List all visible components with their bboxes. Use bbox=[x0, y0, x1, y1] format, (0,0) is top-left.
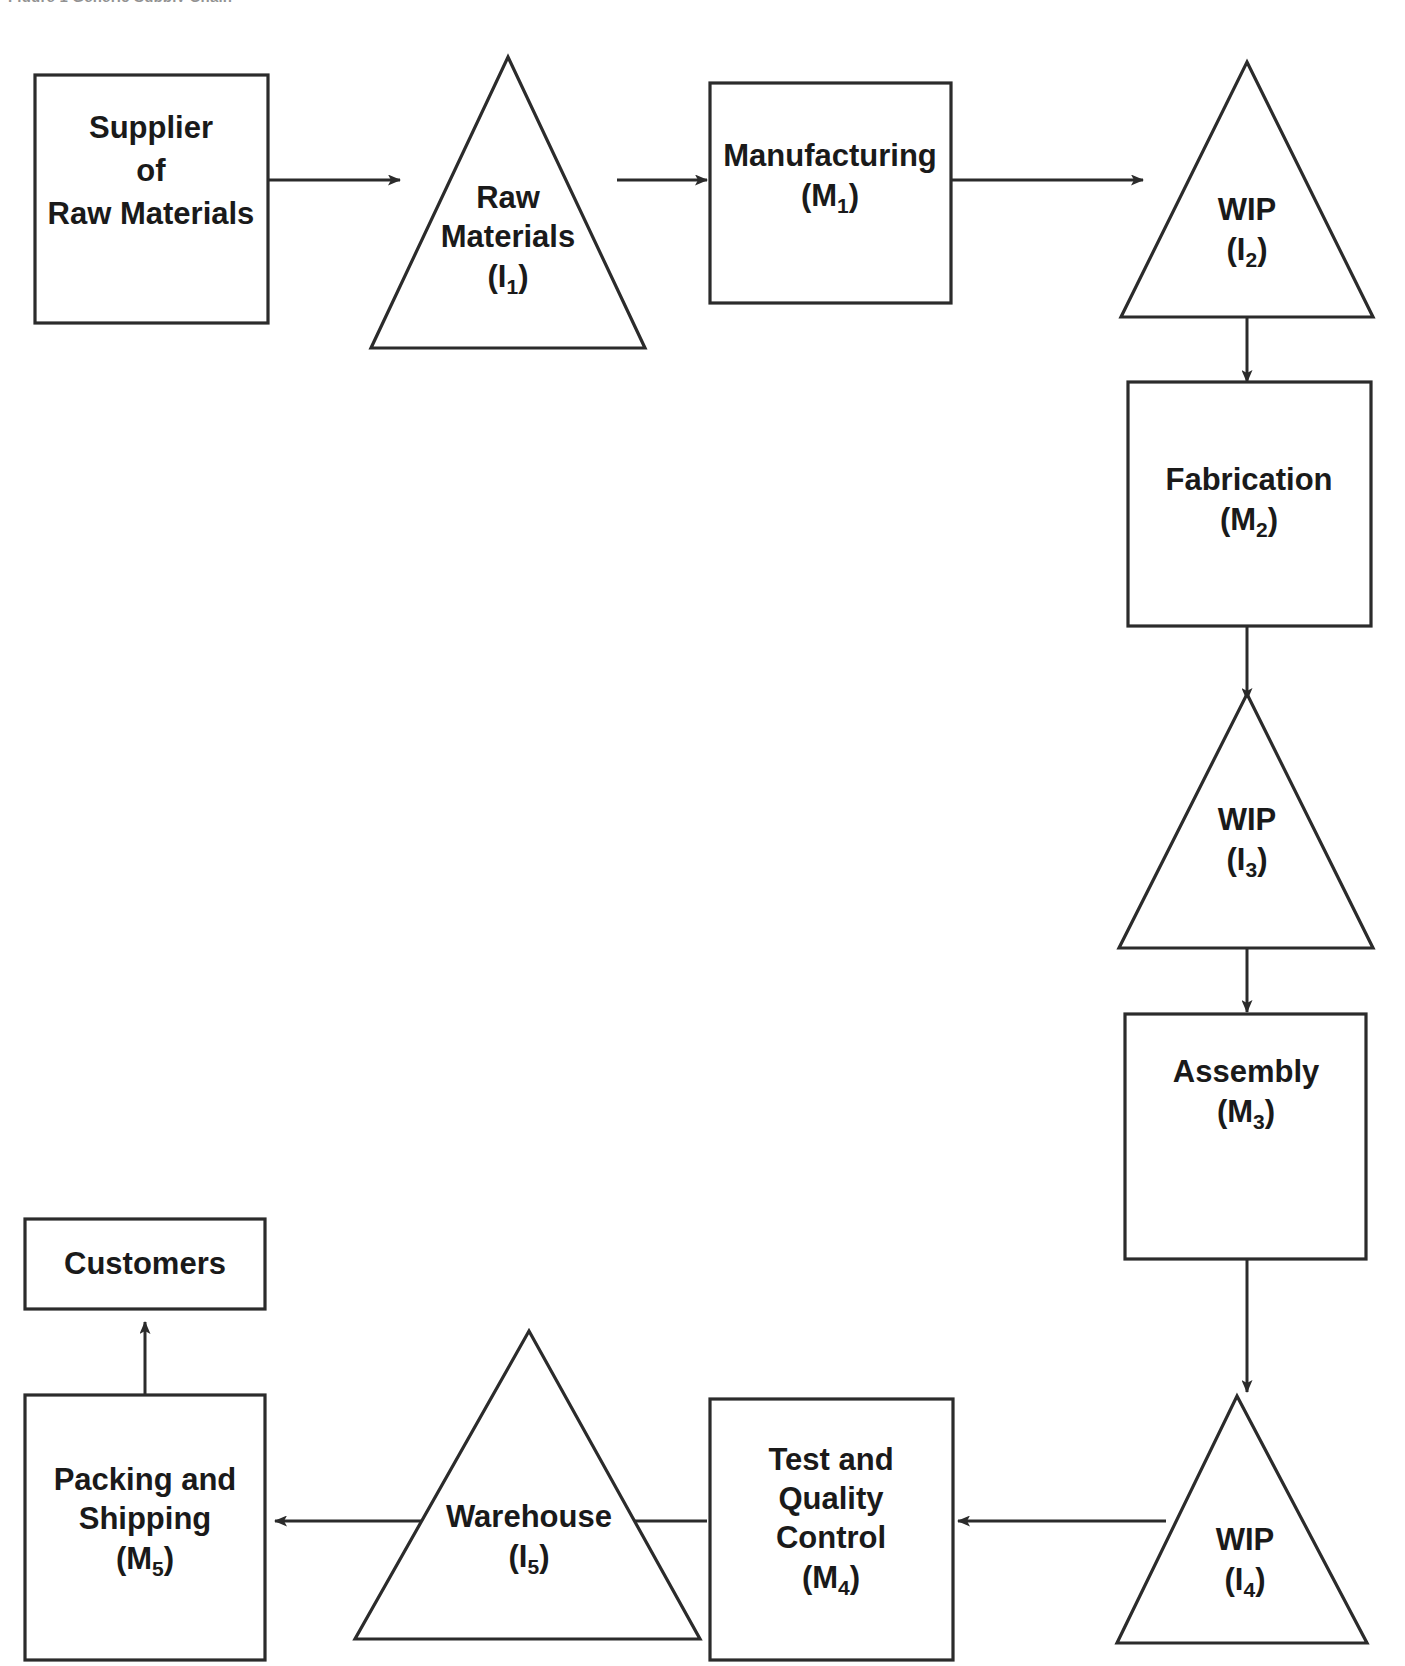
supplier-label-line3: Raw Materials bbox=[48, 196, 255, 231]
packing-shipping-label-line2: Shipping bbox=[79, 1501, 212, 1536]
fabrication-code: (M2) bbox=[1220, 502, 1278, 540]
node-wip3[interactable]: WIP (I3) bbox=[1119, 694, 1373, 948]
wip2-label-line1: WIP bbox=[1218, 192, 1277, 227]
test-quality-label-line2: Quality bbox=[778, 1481, 884, 1516]
wip2-triangle[interactable] bbox=[1121, 62, 1373, 317]
test-quality-label-line1: Test and bbox=[768, 1442, 893, 1477]
node-customers[interactable]: Customers bbox=[25, 1219, 265, 1309]
node-fabrication[interactable]: Fabrication (M2) bbox=[1128, 382, 1371, 626]
test-quality-code: (M4) bbox=[802, 1560, 860, 1598]
node-test-quality[interactable]: Test and Quality Control (M4) bbox=[710, 1399, 953, 1660]
manufacturing-label-line1: Manufacturing bbox=[723, 138, 937, 173]
warehouse-label-line1: Warehouse bbox=[446, 1499, 612, 1534]
flowchart-canvas: Supplier of Raw Materials Raw Materials … bbox=[0, 0, 1405, 1666]
supplier-label-line1: Supplier bbox=[89, 110, 213, 145]
assembly-code: (M3) bbox=[1217, 1094, 1275, 1132]
node-wip2[interactable]: WIP (I2) bbox=[1121, 62, 1373, 317]
fabrication-label-line1: Fabrication bbox=[1165, 462, 1332, 497]
customers-label-line1: Customers bbox=[64, 1246, 226, 1281]
wip3-label-line1: WIP bbox=[1218, 802, 1277, 837]
node-raw-materials[interactable]: Raw Materials (I1) bbox=[371, 57, 645, 348]
wip4-label-line1: WIP bbox=[1216, 1522, 1275, 1557]
test-quality-label-line3: Control bbox=[776, 1520, 886, 1555]
raw-materials-label-line2: Materials bbox=[441, 219, 575, 254]
assembly-box[interactable] bbox=[1125, 1014, 1366, 1259]
warehouse-triangle[interactable] bbox=[355, 1331, 700, 1639]
node-packing-shipping[interactable]: Packing and Shipping (M5) bbox=[25, 1395, 265, 1660]
supply-chain-diagram: Figure 1 Generic Supply Chain Supplier bbox=[0, 0, 1405, 1666]
node-warehouse[interactable]: Warehouse (I5) bbox=[355, 1331, 700, 1639]
node-assembly[interactable]: Assembly (M3) bbox=[1125, 1014, 1366, 1259]
node-supplier[interactable]: Supplier of Raw Materials bbox=[35, 75, 268, 323]
packing-shipping-code: (M5) bbox=[116, 1541, 174, 1579]
node-manufacturing[interactable]: Manufacturing (M1) bbox=[710, 83, 951, 303]
manufacturing-code: (M1) bbox=[801, 178, 859, 216]
packing-shipping-label-line1: Packing and bbox=[54, 1462, 237, 1497]
raw-materials-label-line1: Raw bbox=[476, 180, 541, 215]
supplier-label-line2: of bbox=[136, 153, 166, 188]
edge-layer bbox=[145, 180, 1247, 1521]
assembly-label-line1: Assembly bbox=[1173, 1054, 1320, 1089]
